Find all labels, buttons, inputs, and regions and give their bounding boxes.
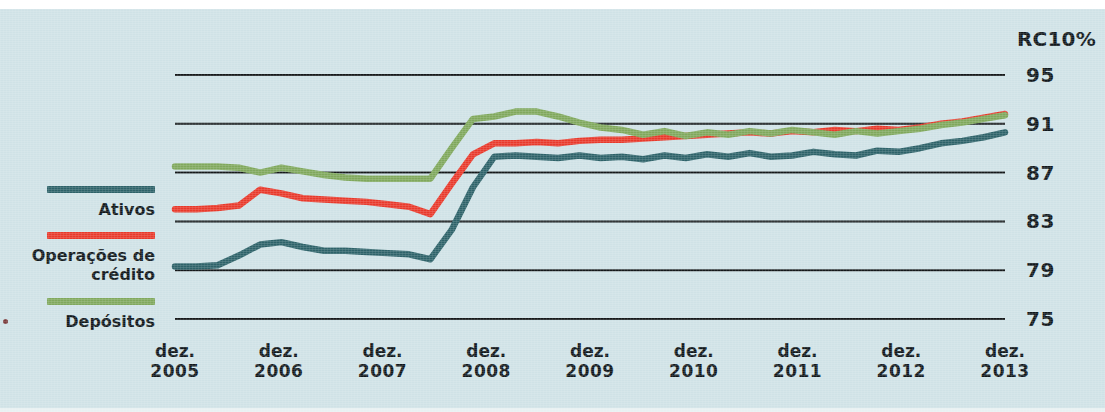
legend-label-line2: crédito (10, 265, 155, 284)
x-tick-month: dez. (856, 341, 946, 361)
legend-label-ativos: Ativos (10, 200, 155, 219)
x-tick-year: 2007 (338, 361, 428, 381)
x-tick-label-2012: dez.2012 (856, 341, 946, 381)
x-tick-year: 2011 (753, 361, 843, 381)
legend-swatch-operacoes-de-credito (47, 232, 155, 239)
chart-figure: RC10% 959187837975 dez.2005dez.2006dez.2… (0, 0, 1105, 412)
x-tick-month: dez. (545, 341, 635, 361)
legend-item-operacoes-de-credito[interactable]: Operações decrédito (10, 232, 155, 284)
x-tick-year: 2010 (649, 361, 739, 381)
legend-item-ativos[interactable]: Ativos (10, 186, 155, 219)
legend-swatch-ativos (47, 186, 155, 193)
x-tick-year: 2012 (856, 361, 946, 381)
x-tick-year: 2008 (441, 361, 531, 381)
x-tick-year: 2005 (130, 361, 220, 381)
x-tick-label-2013: dez.2013 (960, 341, 1050, 381)
x-tick-year: 2013 (960, 361, 1050, 381)
legend-item-depositos[interactable]: Depósitos (10, 298, 155, 331)
x-tick-year: 2006 (234, 361, 324, 381)
legend-label-line1: Operações de (10, 246, 155, 265)
y-tick-label-91: 91 (1026, 112, 1055, 136)
scan-artifact-dot (3, 319, 8, 324)
y-tick-label-79: 79 (1026, 258, 1055, 282)
x-tick-label-2008: dez.2008 (441, 341, 531, 381)
y-tick-label-95: 95 (1026, 63, 1055, 87)
x-tick-label-2009: dez.2009 (545, 341, 635, 381)
x-tick-year: 2009 (545, 361, 635, 381)
x-tick-month: dez. (753, 341, 843, 361)
y-tick-label-87: 87 (1026, 161, 1055, 185)
x-tick-label-2005: dez.2005 (130, 341, 220, 381)
bottom-edge-strip (0, 408, 1105, 412)
x-tick-label-2006: dez.2006 (234, 341, 324, 381)
x-tick-label-2011: dez.2011 (753, 341, 843, 381)
x-tick-month: dez. (649, 341, 739, 361)
y-tick-label-83: 83 (1026, 209, 1055, 233)
y-tick-label-75: 75 (1026, 307, 1055, 331)
legend-label-operacoes-de-credito: Operações decrédito (10, 246, 155, 284)
x-tick-month: dez. (441, 341, 531, 361)
legend-swatch-depositos (47, 298, 155, 305)
x-tick-month: dez. (234, 341, 324, 361)
x-tick-month: dez. (338, 341, 428, 361)
legend-label-depositos: Depósitos (10, 312, 155, 331)
series-line-opera-es-de-cr-dito (175, 114, 1005, 214)
x-tick-label-2007: dez.2007 (338, 341, 428, 381)
x-tick-label-2010: dez.2010 (649, 341, 739, 381)
series-lines (175, 112, 1005, 267)
y-axis-unit-label: RC10% (1017, 27, 1096, 51)
x-tick-month: dez. (960, 341, 1050, 361)
series-line-dep-sitos (175, 112, 1005, 179)
x-tick-month: dez. (130, 341, 220, 361)
